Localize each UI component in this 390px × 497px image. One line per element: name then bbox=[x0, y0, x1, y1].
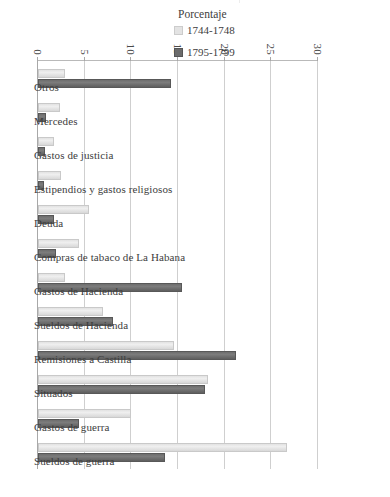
scan-artifact bbox=[239, 0, 240, 3]
bar-0[interactable] bbox=[38, 137, 54, 146]
tick-label: 25 bbox=[265, 44, 277, 55]
category-label: Otros bbox=[34, 81, 59, 93]
category-label: Deuda bbox=[34, 217, 63, 229]
light-grey-swatch bbox=[174, 26, 183, 35]
bar-0[interactable] bbox=[38, 239, 79, 248]
value-axis-title-text: Porcentaje bbox=[178, 8, 227, 20]
bar-group[interactable] bbox=[38, 95, 318, 129]
category-label: Compras de tabaco de La Habana bbox=[34, 251, 185, 263]
bar-chart-figure: 051015202530 OtrosMercedesGastos de just… bbox=[0, 0, 390, 497]
bar-0[interactable] bbox=[38, 307, 103, 316]
category-label: Estipendios y gastos religiosos bbox=[34, 183, 172, 195]
bar-0[interactable] bbox=[38, 341, 174, 350]
bar-0[interactable] bbox=[38, 103, 60, 112]
bar-0[interactable] bbox=[38, 443, 287, 452]
legend-item[interactable]: 1744-1748 bbox=[174, 24, 235, 36]
bar-0[interactable] bbox=[38, 171, 61, 180]
bar-0[interactable] bbox=[38, 375, 208, 384]
category-label: Gastos de justicia bbox=[34, 149, 113, 161]
category-label: Situados bbox=[34, 387, 73, 399]
tick-label: 0 bbox=[32, 49, 44, 55]
legend-label: 1795-1799 bbox=[187, 46, 235, 58]
tick-label: 5 bbox=[79, 49, 91, 55]
legend-label: 1744-1748 bbox=[187, 24, 235, 36]
category-label: Sueldos de guerra bbox=[34, 455, 115, 467]
category-axis-labels: OtrosMercedesGastos de justiciaEstipendi… bbox=[0, 60, 34, 468]
category-label: Remisiones a Castilla bbox=[34, 353, 131, 365]
plot-area: 051015202530 bbox=[37, 60, 318, 469]
bar-group[interactable] bbox=[38, 61, 318, 95]
tick-label: 30 bbox=[312, 44, 324, 55]
category-label: Gastos de Hacienda bbox=[34, 285, 123, 297]
bar-0[interactable] bbox=[38, 205, 89, 214]
bar-0[interactable] bbox=[38, 409, 131, 418]
bar-0[interactable] bbox=[38, 273, 65, 282]
bars-layer bbox=[38, 61, 318, 469]
bar-group[interactable] bbox=[38, 197, 318, 231]
category-label: Gastos de guerra bbox=[34, 421, 110, 433]
tick-label: 10 bbox=[125, 44, 137, 55]
rotated-figure-wrapper: 051015202530 OtrosMercedesGastos de just… bbox=[0, 0, 390, 497]
dark-grey-swatch bbox=[174, 48, 183, 57]
legend-item[interactable]: 1795-1799 bbox=[174, 46, 235, 58]
category-label: Mercedes bbox=[34, 115, 78, 127]
bar-0[interactable] bbox=[38, 69, 65, 78]
bar-group[interactable] bbox=[38, 367, 318, 401]
category-label: Sueldos de Hacienda bbox=[34, 319, 128, 331]
